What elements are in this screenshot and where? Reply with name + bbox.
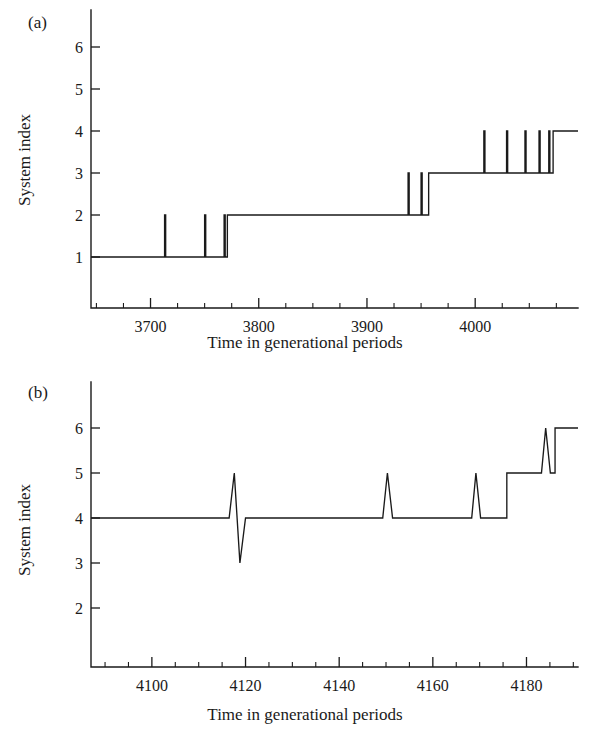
x-tick-label: 4100 bbox=[136, 677, 168, 694]
axes-panel-a bbox=[91, 10, 578, 308]
y-tick-label: 2 bbox=[75, 600, 83, 617]
y-tick-label: 4 bbox=[75, 510, 83, 527]
y-axis-title-a: System index bbox=[15, 113, 34, 206]
y-axis-title-b: System index bbox=[15, 483, 34, 576]
panel-label-b: (b) bbox=[28, 383, 48, 402]
x-tick-label: 4140 bbox=[323, 677, 355, 694]
x-axis-title-a: Time in generational periods bbox=[207, 333, 402, 352]
chart-panel-b: (b) System index Time in generational pe… bbox=[0, 370, 594, 741]
y-tick-label: 3 bbox=[75, 165, 83, 182]
x-tick-label: 4000 bbox=[459, 318, 491, 335]
axes-panel-b bbox=[91, 382, 578, 667]
chart-svg-panel-b: (b) System index Time in generational pe… bbox=[0, 370, 594, 741]
x-axis-title-b: Time in generational periods bbox=[207, 705, 402, 724]
data-series-panel-a bbox=[91, 131, 578, 257]
chart-svg-panel-a: (a) System index Time in generational pe… bbox=[0, 0, 594, 370]
y-tick-label: 2 bbox=[75, 207, 83, 224]
panel-label-a: (a) bbox=[28, 13, 47, 32]
x-tick-label: 3800 bbox=[243, 318, 275, 335]
y-tick-label: 5 bbox=[75, 81, 83, 98]
y-tick-label: 5 bbox=[75, 465, 83, 482]
y-tick-label: 4 bbox=[75, 123, 83, 140]
x-tick-label: 4180 bbox=[510, 677, 542, 694]
tick-labels-panel-b: 2345641004120414041604180 bbox=[75, 420, 542, 694]
tick-marks-panel-b bbox=[91, 428, 573, 667]
chart-panel-a: (a) System index Time in generational pe… bbox=[0, 0, 594, 370]
y-tick-label: 6 bbox=[75, 420, 83, 437]
x-tick-label: 4160 bbox=[417, 677, 449, 694]
y-tick-label: 1 bbox=[75, 249, 83, 266]
x-tick-label: 4120 bbox=[230, 677, 262, 694]
tick-marks-panel-a bbox=[91, 47, 556, 308]
figure-container: (a) System index Time in generational pe… bbox=[0, 0, 594, 741]
y-tick-label: 6 bbox=[75, 39, 83, 56]
x-tick-label: 3700 bbox=[135, 318, 167, 335]
x-tick-label: 3900 bbox=[351, 318, 383, 335]
data-series-panel-b bbox=[91, 428, 578, 563]
y-tick-label: 3 bbox=[75, 555, 83, 572]
